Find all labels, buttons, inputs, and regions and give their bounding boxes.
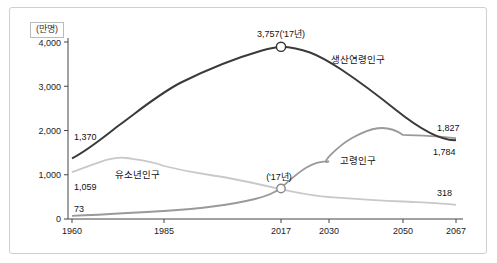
chart-screenshot: (만명) 0 1,000 2,000 3,000 4,000	[0, 0, 497, 263]
series-line-youth	[72, 158, 456, 205]
y-tick-label: 4,000	[38, 38, 61, 48]
y-tick-label: 1,000	[38, 170, 61, 180]
x-tick-label: 2017	[271, 226, 291, 236]
peak-marker	[276, 42, 285, 51]
start-elderly-label: 73	[74, 204, 84, 214]
series-label-working-age: 생산연령인구	[331, 54, 385, 65]
y-tick-label: 3,000	[38, 82, 61, 92]
peak-label: 3,757('17년)	[257, 29, 305, 39]
end-working-age-label: 1,784	[433, 147, 456, 157]
series-label-youth: 유소년인구	[115, 169, 160, 180]
x-tick-label: 1985	[154, 226, 174, 236]
y-tick-label: 2,000	[38, 126, 61, 136]
x-tick-marks	[72, 219, 456, 223]
y-tick-marks	[64, 42, 68, 219]
crossover-label: ('17년)	[266, 172, 292, 182]
x-tick-label: 2067	[446, 226, 466, 236]
end-youth-label: 318	[437, 188, 452, 198]
y-tick-label: 0	[56, 214, 61, 224]
series-label-elderly: 고령인구	[340, 155, 376, 166]
x-tick-label: 2050	[393, 226, 413, 236]
start-working-age-label: 1,370	[74, 132, 97, 142]
series-line-working-age	[72, 47, 456, 159]
crossover-marker	[277, 184, 285, 192]
start-youth-label: 1,059	[74, 182, 97, 192]
population-line-chart: 0 1,000 2,000 3,000 4,000 1960 1985 2017…	[0, 0, 497, 263]
end-elderly-label: 1,827	[437, 123, 460, 133]
x-tick-label: 2030	[319, 226, 339, 236]
x-tick-labels: 1960 1985 2017 2030 2050 2067	[62, 226, 466, 236]
x-tick-label: 1960	[62, 226, 82, 236]
y-tick-labels: 0 1,000 2,000 3,000 4,000	[38, 38, 61, 225]
